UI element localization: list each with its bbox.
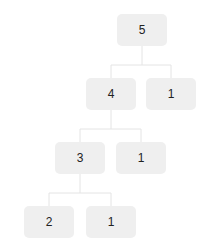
tree-node-leaf: 1 bbox=[146, 78, 196, 110]
tree-node-leaf: 1 bbox=[116, 142, 166, 174]
tree-node-leaf: 1 bbox=[86, 206, 136, 238]
node-label: 1 bbox=[108, 215, 115, 229]
tree-node-root: 5 bbox=[117, 14, 167, 46]
node-label: 2 bbox=[46, 215, 53, 229]
node-label: 3 bbox=[77, 151, 84, 165]
node-label: 5 bbox=[139, 23, 146, 37]
node-label: 1 bbox=[168, 87, 175, 101]
tree-node: 4 bbox=[86, 78, 136, 110]
tree-node-leaf: 2 bbox=[24, 206, 74, 238]
tree-node: 3 bbox=[55, 142, 105, 174]
node-label: 1 bbox=[138, 151, 145, 165]
node-label: 4 bbox=[108, 87, 115, 101]
